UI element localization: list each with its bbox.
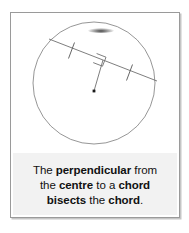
tick-right-half-icon (127, 65, 133, 81)
caption-l2-seg3: to a (93, 179, 118, 191)
caption-l1-seg3: from (131, 164, 157, 176)
caption-l2-seg1: the (40, 179, 59, 191)
caption-l3-seg2: the (86, 194, 108, 206)
tick-left-half-icon (69, 43, 75, 59)
caption-l3-keyword-chord: chord (108, 194, 140, 206)
caption-line-3: bisects the chord. (13, 193, 177, 208)
diagram-area (11, 13, 179, 151)
caption-l1-keyword-perpendicular: perpendicular (56, 164, 131, 176)
caption-l3-keyword-bisects: bisects (47, 194, 86, 206)
caption-line-2: the centre to a chord (13, 178, 177, 193)
caption-l1-seg1: The (33, 164, 56, 176)
centre-point-dot (93, 90, 96, 93)
caption-line-1: The perpendicular from (13, 163, 177, 178)
right-angle-marker (93, 54, 106, 67)
circle-theorem-card: The perpendicular from the centre to a c… (0, 0, 189, 233)
card-frame: The perpendicular from the centre to a c… (10, 12, 180, 218)
caption-l2-keyword-centre: centre (59, 179, 93, 191)
caption-block: The perpendicular from the centre to a c… (13, 153, 177, 215)
caption-l2-keyword-chord: chord (118, 179, 150, 191)
caption-l3-period: . (140, 194, 143, 206)
circle-diagram (11, 13, 179, 151)
